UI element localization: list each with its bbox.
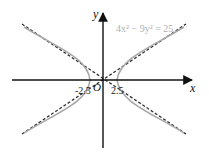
vertex-left-label: -2.5: [75, 85, 91, 96]
origin-label: O: [93, 81, 101, 93]
y-axis-label: y: [92, 7, 99, 21]
x-axis-label: x: [189, 81, 196, 95]
equation-label: 4x² − 9y² = 25: [116, 23, 173, 34]
hyperbola-diagram: y x O -2.5 2.5 4x² − 9y² = 25: [0, 0, 209, 152]
vertex-right-label: 2.5: [111, 85, 124, 96]
